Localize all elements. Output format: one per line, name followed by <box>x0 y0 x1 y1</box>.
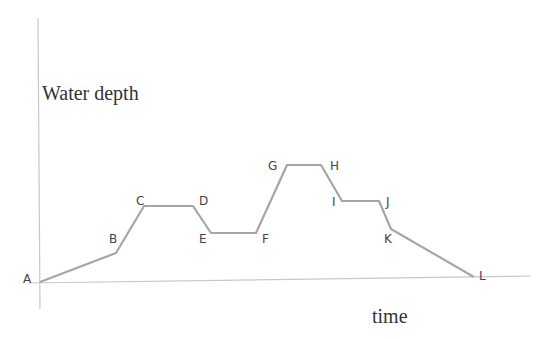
depth-line <box>40 165 474 282</box>
point-label-l: L <box>479 269 486 283</box>
point-label-j: J <box>385 195 390 209</box>
point-label-i: I <box>332 195 336 209</box>
point-label-g: G <box>268 159 277 173</box>
point-label-b: B <box>109 232 117 246</box>
point-label-c: C <box>136 194 144 208</box>
point-label-d: D <box>199 194 208 208</box>
point-label-h: H <box>330 159 339 173</box>
x-axis-label: time <box>372 305 408 327</box>
water-depth-diagram: Water depth time A B C D E F G H I J K L <box>0 0 551 339</box>
point-label-a: A <box>23 272 32 286</box>
y-axis <box>38 18 40 309</box>
x-axis <box>28 276 531 283</box>
point-label-e: E <box>199 232 207 246</box>
point-label-k: K <box>384 232 393 246</box>
y-axis-label: Water depth <box>42 82 139 105</box>
diagram-svg: Water depth time A B C D E F G H I J K L <box>0 0 551 339</box>
point-label-f: F <box>262 232 269 246</box>
